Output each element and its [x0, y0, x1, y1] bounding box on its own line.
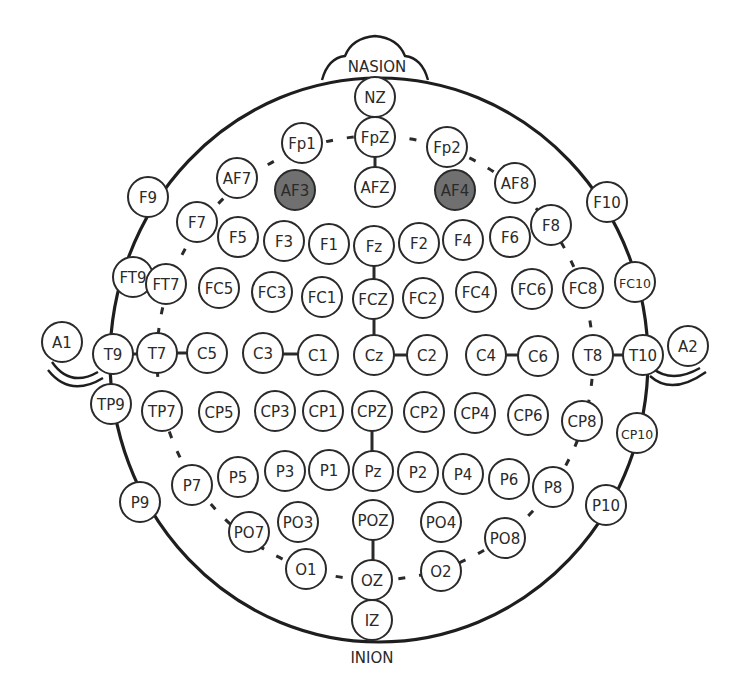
electrode-cp1[interactable]: CP1 — [303, 391, 343, 431]
electrode-label: FC8 — [569, 280, 598, 298]
electrode-label: TP7 — [147, 403, 176, 421]
electrode-cp5[interactable]: CP5 — [199, 392, 239, 432]
electrode-fc2[interactable]: FC2 — [403, 278, 443, 318]
electrode-label: P10 — [592, 497, 620, 515]
electrode-f7[interactable]: F7 — [177, 202, 217, 242]
electrode-p10[interactable]: P10 — [586, 485, 626, 525]
electrode-cp2[interactable]: CP2 — [404, 392, 444, 432]
electrode-f2[interactable]: F2 — [399, 223, 439, 263]
electrode-p4[interactable]: P4 — [443, 454, 483, 494]
electrode-label: AF3 — [281, 182, 309, 200]
electrode-afz[interactable]: AFZ — [355, 167, 395, 207]
electrode-po3[interactable]: PO3 — [278, 502, 318, 542]
electrode-fz[interactable]: Fz — [354, 226, 394, 266]
electrode-p1[interactable]: P1 — [309, 450, 349, 490]
electrode-cp10[interactable]: CP10 — [617, 413, 657, 453]
electrode-label: AF8 — [501, 175, 529, 193]
electrode-a1[interactable]: A1 — [42, 322, 82, 362]
electrode-af7[interactable]: AF7 — [217, 158, 257, 198]
electrode-f8[interactable]: F8 — [531, 205, 571, 245]
electrode-label: PO3 — [283, 514, 313, 532]
electrode-o2[interactable]: O2 — [421, 551, 461, 591]
electrode-fcz[interactable]: FCZ — [353, 279, 393, 319]
electrode-oz[interactable]: OZ — [352, 560, 392, 600]
electrode-po8[interactable]: PO8 — [485, 518, 525, 558]
electrode-label: F7 — [188, 214, 206, 232]
electrode-label: C3 — [253, 345, 273, 363]
electrode-nz[interactable]: NZ — [355, 77, 395, 117]
electrode-tp9[interactable]: TP9 — [91, 384, 131, 424]
electrode-af8[interactable]: AF8 — [495, 163, 535, 203]
electrode-fc10[interactable]: FC10 — [615, 262, 655, 302]
electrode-p2[interactable]: P2 — [398, 452, 438, 492]
electrode-label: F4 — [454, 232, 472, 250]
electrode-po7[interactable]: PO7 — [229, 512, 269, 552]
electrode-fp1[interactable]: Fp1 — [282, 123, 322, 163]
electrode-o1[interactable]: O1 — [286, 549, 326, 589]
electrode-label: P2 — [409, 464, 428, 482]
electrode-label: CP2 — [409, 404, 438, 422]
electrode-p3[interactable]: P3 — [265, 451, 305, 491]
electrode-label: CPZ — [357, 403, 387, 421]
electrode-f6[interactable]: F6 — [490, 217, 530, 257]
electrode-fc5[interactable]: FC5 — [199, 268, 239, 308]
electrode-p9[interactable]: P9 — [120, 482, 160, 522]
electrode-label: AF4 — [441, 182, 469, 200]
electrode-label: CP4 — [460, 405, 489, 423]
electrode-cpz[interactable]: CPZ — [352, 391, 392, 431]
electrode-pz[interactable]: Pz — [353, 451, 393, 491]
electrode-label: CP10 — [621, 427, 653, 442]
electrode-label: C2 — [417, 347, 437, 365]
electrode-ft7[interactable]: FT7 — [146, 264, 186, 304]
electrode-f10[interactable]: F10 — [587, 182, 627, 222]
electrode-cp4[interactable]: CP4 — [455, 393, 495, 433]
electrode-label: NZ — [364, 89, 386, 107]
electrode-fpz[interactable]: FpZ — [355, 117, 395, 157]
electrode-label: CP3 — [260, 403, 289, 421]
electrode-cz[interactable]: Cz — [354, 335, 394, 375]
electrode-c6[interactable]: C6 — [518, 336, 558, 376]
electrode-f1[interactable]: F1 — [309, 224, 349, 264]
electrode-c5[interactable]: C5 — [187, 333, 227, 373]
electrode-f5[interactable]: F5 — [218, 217, 258, 257]
electrode-t10[interactable]: T10 — [623, 335, 663, 375]
electrode-label: F6 — [501, 229, 519, 247]
electrode-f3[interactable]: F3 — [264, 221, 304, 261]
electrode-fp2[interactable]: Fp2 — [427, 127, 467, 167]
electrode-cp3[interactable]: CP3 — [255, 391, 295, 431]
electrode-label: FC4 — [462, 284, 491, 302]
electrode-fc3[interactable]: FC3 — [252, 272, 292, 312]
electrode-cp6[interactable]: CP6 — [508, 395, 548, 435]
electrode-af3[interactable]: AF3 — [275, 170, 315, 210]
electrode-label: PO7 — [234, 524, 264, 542]
electrode-label: AFZ — [360, 179, 389, 197]
electrode-tp7[interactable]: TP7 — [142, 391, 182, 431]
electrode-t9[interactable]: T9 — [93, 334, 133, 374]
electrode-c2[interactable]: C2 — [407, 335, 447, 375]
electrode-c3[interactable]: C3 — [243, 333, 283, 373]
electrode-af4[interactable]: AF4 — [435, 170, 475, 210]
electrode-fc1[interactable]: FC1 — [302, 277, 342, 317]
electrode-fc6[interactable]: FC6 — [512, 269, 552, 309]
electrode-label: P9 — [131, 494, 150, 512]
electrode-p7[interactable]: P7 — [172, 465, 212, 505]
electrode-fc4[interactable]: FC4 — [456, 272, 496, 312]
electrode-label: PO4 — [426, 514, 456, 532]
electrode-t7[interactable]: T7 — [137, 333, 177, 373]
electrode-c4[interactable]: C4 — [466, 335, 506, 375]
electrode-c1[interactable]: C1 — [298, 335, 338, 375]
electrode-p6[interactable]: P6 — [489, 459, 529, 499]
electrode-p5[interactable]: P5 — [218, 457, 258, 497]
electrode-f9[interactable]: F9 — [128, 177, 168, 217]
electrode-f4[interactable]: F4 — [443, 220, 483, 260]
electrode-iz[interactable]: IZ — [352, 600, 392, 640]
electrode-p8[interactable]: P8 — [533, 467, 573, 507]
electrode-fc8[interactable]: FC8 — [563, 268, 603, 308]
electrode-a2[interactable]: A2 — [668, 326, 708, 366]
electrode-po4[interactable]: PO4 — [421, 502, 461, 542]
electrode-t8[interactable]: T8 — [573, 335, 613, 375]
electrode-cp8[interactable]: CP8 — [562, 401, 602, 441]
electrode-label: CP6 — [513, 407, 542, 425]
electrode-poz[interactable]: POZ — [353, 500, 393, 540]
electrode-label: Cz — [365, 347, 383, 365]
